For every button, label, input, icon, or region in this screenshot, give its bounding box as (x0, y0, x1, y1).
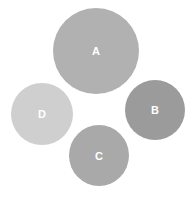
circle-c-label: C (95, 150, 103, 162)
circle-b-label: B (151, 104, 159, 116)
circle-b: B (125, 80, 185, 140)
circle-c: C (69, 125, 129, 186)
circle-d: D (11, 83, 73, 145)
circle-a: A (53, 8, 139, 94)
circle-a-label: A (92, 45, 100, 57)
circle-d-label: D (38, 108, 46, 120)
